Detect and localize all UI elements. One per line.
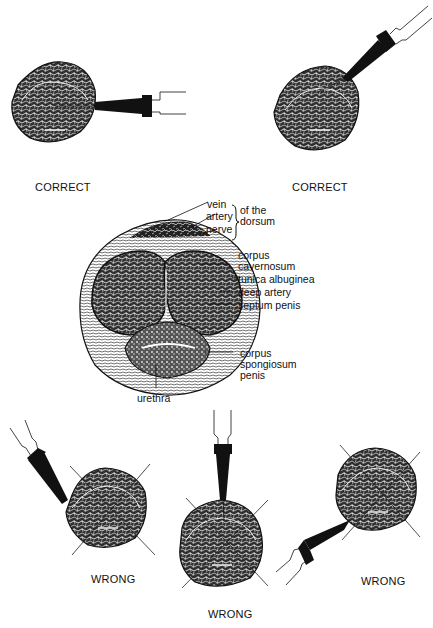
caption-wrong-right: WRONG xyxy=(361,575,405,587)
label-tunica-albuginea: tunica albuginea xyxy=(238,274,314,285)
label-of-the-dorsum: of the dorsum xyxy=(240,205,275,227)
label-deep-artery: deep artery xyxy=(238,287,291,298)
label-corpus-cavernosum: corpus cavernosum xyxy=(238,250,295,272)
label-corpus-spongiosum-line3: penis xyxy=(240,370,297,381)
label-corpus-spongiosum-penis: corpus spongiosum penis xyxy=(240,348,297,381)
figure-correct-right xyxy=(250,0,433,165)
label-dorsum: dorsum xyxy=(240,216,275,227)
label-vein: vein xyxy=(207,199,226,210)
caption-wrong-middle: WRONG xyxy=(208,608,252,620)
label-artery: artery xyxy=(206,211,233,222)
caption-wrong-left: WRONG xyxy=(91,573,135,585)
caption-correct-left: CORRECT xyxy=(35,181,91,193)
figure-correct-left xyxy=(0,40,200,165)
cross-section-with-probe-illustration xyxy=(250,0,433,165)
cross-section-with-probe-illustration xyxy=(0,40,200,165)
figure-wrong-right xyxy=(270,400,433,590)
label-nerve: nerve xyxy=(206,224,232,235)
caption-correct-right: CORRECT xyxy=(292,181,348,193)
label-corpus-cavernosum-line2: cavernosum xyxy=(238,261,295,272)
cross-section-with-probe-illustration xyxy=(270,400,433,590)
label-septum-penis: septum penis xyxy=(238,300,300,311)
